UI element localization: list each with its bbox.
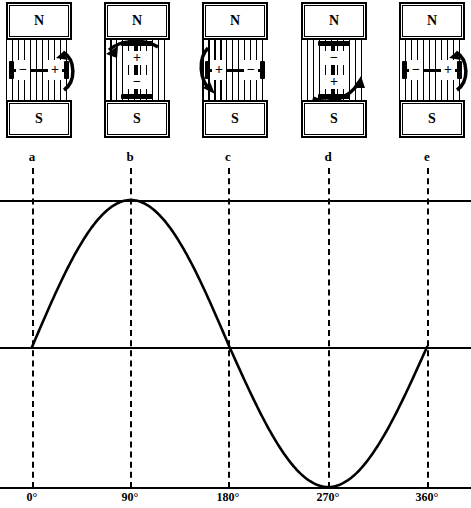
north-pole-label: N bbox=[230, 13, 240, 29]
x-tick-0: 0° bbox=[27, 490, 38, 505]
field-gap: + − bbox=[104, 40, 170, 100]
field-gap: − + bbox=[301, 40, 367, 100]
north-pole-block: N bbox=[104, 2, 170, 40]
magnet-panel-b: N + − S bbox=[98, 0, 178, 140]
coil-horizontal: − + bbox=[9, 60, 69, 80]
north-pole-block: N bbox=[301, 2, 367, 40]
magnet-panel-c: N + − S bbox=[196, 0, 276, 140]
terminal-left: − bbox=[409, 60, 423, 80]
magnet-panel-a: N − + S bbox=[0, 0, 80, 140]
terminal-bottom: + bbox=[324, 75, 344, 89]
x-tick-90: 90° bbox=[122, 490, 139, 505]
south-pole-label: S bbox=[35, 111, 43, 127]
coil-horizontal: + − bbox=[205, 60, 265, 80]
south-pole-label: S bbox=[330, 111, 338, 127]
field-gap: − + bbox=[399, 40, 465, 100]
south-pole-block: S bbox=[6, 100, 72, 138]
terminal-right: + bbox=[48, 60, 62, 80]
south-pole-block: S bbox=[104, 100, 170, 138]
terminal-left: − bbox=[16, 60, 30, 80]
north-pole-label: N bbox=[132, 13, 142, 29]
terminal-top: + bbox=[127, 51, 147, 65]
south-pole-block: S bbox=[301, 100, 367, 138]
field-gap: − + bbox=[6, 40, 72, 100]
terminal-top: − bbox=[324, 51, 344, 65]
coil-vertical: + − bbox=[118, 41, 156, 99]
north-pole-block: N bbox=[399, 2, 465, 40]
south-pole-label: S bbox=[133, 111, 141, 127]
field-gap: + − bbox=[202, 40, 268, 100]
x-tick-270: 270° bbox=[317, 490, 340, 505]
north-pole-label: N bbox=[34, 13, 44, 29]
north-pole-block: N bbox=[202, 2, 268, 40]
terminal-right: − bbox=[244, 60, 258, 80]
terminal-bottom: − bbox=[127, 75, 147, 89]
terminal-left: + bbox=[212, 60, 226, 80]
sine-curve bbox=[0, 150, 471, 508]
south-pole-block: S bbox=[399, 100, 465, 138]
north-pole-label: N bbox=[427, 13, 437, 29]
magnet-panel-d: N − + S bbox=[295, 0, 375, 140]
south-pole-label: S bbox=[231, 111, 239, 127]
coil-horizontal: − + bbox=[402, 60, 462, 80]
south-pole-label: S bbox=[428, 111, 436, 127]
coil-vertical: − + bbox=[315, 41, 353, 99]
north-pole-block: N bbox=[6, 2, 72, 40]
south-pole-block: S bbox=[202, 100, 268, 138]
terminal-right: + bbox=[441, 60, 455, 80]
x-tick-360: 360° bbox=[416, 490, 439, 505]
x-tick-180: 180° bbox=[217, 490, 240, 505]
north-pole-label: N bbox=[329, 13, 339, 29]
emf-waveform-plot: a b c d e 0° 90° 180° 270° 360° bbox=[0, 150, 471, 508]
figure-root: N − + S N + − bbox=[0, 0, 471, 508]
magnet-panel-e: N − + S bbox=[393, 0, 471, 140]
